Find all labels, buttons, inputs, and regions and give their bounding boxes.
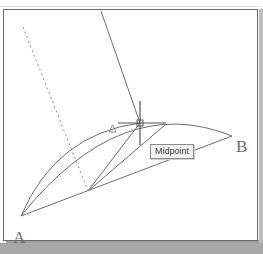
sheet-top-edge xyxy=(0,6,259,7)
page-background-bottom xyxy=(0,243,263,254)
snap-tooltip-midpoint: Midpoint xyxy=(150,144,194,159)
arc-a-to-b xyxy=(21,124,232,216)
geometry-svg xyxy=(4,10,257,240)
drawing-canvas[interactable]: A B Midpoint xyxy=(3,9,258,241)
vertex-label-a: A xyxy=(13,229,25,246)
vertex-label-b: B xyxy=(236,138,247,155)
dashed-construction-line xyxy=(23,27,88,191)
page-background-right xyxy=(259,9,263,243)
inner-arc xyxy=(21,123,140,216)
cad-screenshot-root: A B Midpoint xyxy=(0,0,263,254)
solid-leader-line xyxy=(101,11,140,123)
chord-a-to-b xyxy=(21,136,232,216)
